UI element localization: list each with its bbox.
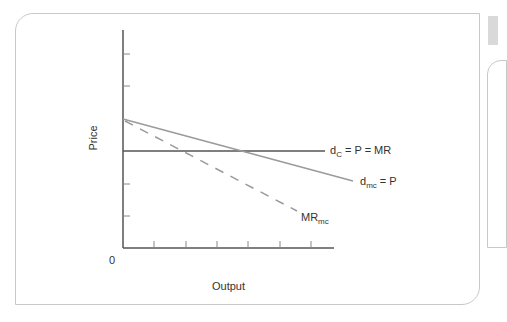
y-axis-label: Price bbox=[87, 121, 99, 155]
label-dmc: dmc = P bbox=[360, 175, 397, 190]
origin-label: 0 bbox=[109, 254, 115, 266]
label-dc: dC = P = MR bbox=[330, 144, 391, 159]
x-ticks bbox=[154, 241, 311, 248]
y-ticks bbox=[123, 54, 130, 216]
line-mrmc bbox=[125, 121, 297, 211]
x-axis-label: Output bbox=[212, 280, 245, 292]
line-dmc bbox=[123, 119, 353, 181]
label-mrmc: MRmc bbox=[301, 211, 329, 226]
